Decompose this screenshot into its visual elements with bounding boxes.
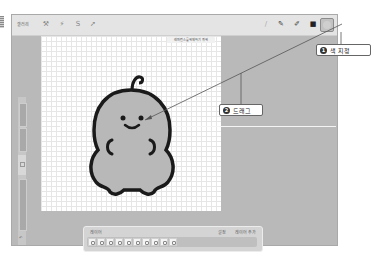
frame-thumbnail[interactable] [169, 238, 177, 246]
left-sidebar: ↶ [18, 97, 26, 245]
frame-thumbnail[interactable] [106, 238, 114, 246]
modify-button[interactable] [18, 155, 26, 175]
frame-thumbnail[interactable] [151, 238, 159, 246]
character-drawing [80, 68, 182, 196]
magic-wand-icon[interactable]: ⚡ [58, 20, 66, 28]
page-marker [0, 16, 4, 28]
layer-panel-title: 레이어 [90, 229, 102, 235]
frame-thumbnail[interactable] [160, 238, 168, 246]
step-number-badge: 1 [320, 47, 327, 54]
color-picker-button[interactable] [320, 18, 334, 32]
frame-thumbnail[interactable] [133, 238, 141, 246]
eraser-icon[interactable]: ✐ [293, 20, 301, 28]
frame-thumbnail[interactable] [142, 238, 150, 246]
settings-button[interactable]: 설정 [218, 230, 226, 235]
brush-icon[interactable]: / [262, 20, 270, 28]
callout-color-select: 1 색 지정 [316, 44, 371, 56]
add-layer-button[interactable]: 레이어 추가 [235, 230, 256, 235]
frame-thumbnail[interactable] [97, 238, 105, 246]
transform-icon[interactable]: ➚ [89, 20, 97, 28]
callout-label: 색 지정 [330, 46, 350, 55]
wrench-icon[interactable]: ⚒ [42, 20, 50, 28]
reference-toast: 레퍼런스를 해제하기 위해 [167, 37, 215, 43]
selection-icon[interactable]: S [74, 20, 82, 28]
brush-size-slider-lower[interactable] [19, 128, 27, 152]
undo-icon[interactable]: ↶ [19, 235, 25, 241]
frame-strip [87, 237, 257, 247]
step-number-badge: 2 [223, 107, 230, 114]
top-toolbar: 갤러리 ⚒ ⚡ S ➚ / ✎ ✐ ■ [12, 15, 337, 36]
smudge-icon[interactable]: ✎ [277, 20, 285, 28]
current-color-dot [323, 21, 331, 29]
callout-drag: 2 드래그 [219, 104, 263, 116]
layer-panel: 레이어 설정 레이어 추가 [83, 226, 263, 252]
layers-icon[interactable]: ■ [309, 20, 317, 28]
frame-thumbnail[interactable] [124, 238, 132, 246]
frame-thumbnail[interactable] [88, 238, 96, 246]
square-icon [20, 162, 25, 167]
callout-label: 드래그 [233, 106, 251, 115]
brush-size-slider[interactable] [19, 103, 27, 127]
layer-panel-actions: 설정 레이어 추가 [211, 229, 256, 235]
frame-thumbnail[interactable] [115, 238, 123, 246]
opacity-slider[interactable] [19, 179, 27, 231]
gallery-button[interactable]: 갤러리 [17, 21, 29, 27]
